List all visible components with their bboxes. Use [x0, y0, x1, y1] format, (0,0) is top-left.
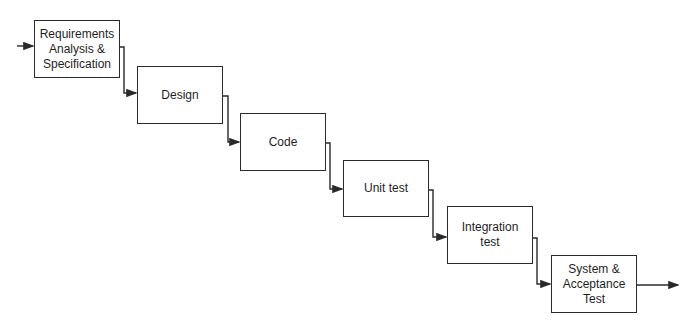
stage-label: Integration test [462, 220, 519, 250]
stage-unit-test: Unit test [343, 160, 429, 217]
arrow-integration-to-system [533, 238, 550, 284]
stage-requirements: Requirements Analysis & Specification [34, 20, 120, 78]
stage-label: Design [161, 88, 198, 103]
arrow-code-to-unit-test [326, 143, 342, 189]
stage-system-acceptance-test: System & Acceptance Test [551, 255, 637, 313]
arrow-design-to-code [223, 96, 239, 142]
arrow-unit-test-to-integration [429, 190, 446, 237]
stage-integration-test: Integration test [447, 206, 533, 264]
stage-label: Code [269, 135, 298, 150]
stage-design: Design [137, 66, 223, 124]
stage-label: System & Acceptance Test [563, 262, 626, 307]
stage-code: Code [240, 113, 326, 171]
stage-label: Unit test [364, 181, 408, 196]
stage-label: Requirements Analysis & Specification [40, 27, 115, 72]
arrow-requirements-to-design [120, 47, 136, 93]
